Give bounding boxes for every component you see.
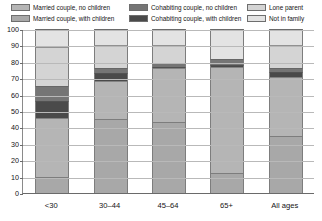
bar-segment[interactable]: [94, 45, 128, 68]
legend-swatch-married-with-children: [11, 15, 30, 22]
x-axis: <3030–4445–6465+All ages: [22, 198, 314, 218]
bar-segment[interactable]: [94, 68, 128, 73]
legend-swatch-married-no-children: [11, 4, 30, 11]
y-tick-label: 90: [11, 43, 19, 50]
legend-item-cohabiting-no-children: Cohabiting couple, no children: [129, 4, 247, 11]
legend-item-cohabiting-with-children: Cohabiting couple, with children: [129, 15, 247, 22]
bar-segment[interactable]: [152, 29, 186, 45]
x-tick-label: 30–44: [99, 201, 120, 210]
gridline: [23, 112, 314, 113]
bar-segment[interactable]: [152, 63, 186, 66]
gridline: [23, 128, 314, 129]
gridline: [23, 96, 314, 97]
y-tick-label: 0: [15, 190, 19, 197]
y-tick-label: 70: [11, 76, 19, 83]
legend-item-not-in-family: Not in family: [247, 15, 314, 22]
bar-segment[interactable]: [94, 73, 128, 81]
gridline: [23, 178, 314, 179]
bar-segment[interactable]: [94, 81, 128, 119]
bar-segment[interactable]: [210, 29, 244, 59]
bar-segment[interactable]: [35, 118, 69, 177]
x-tick-label: 45–64: [157, 201, 178, 210]
legend-label-not-in-family: Not in family: [269, 15, 304, 22]
x-tick-label: <30: [45, 201, 58, 210]
bar-segment[interactable]: [269, 29, 303, 45]
bar-segment[interactable]: [35, 86, 69, 101]
legend-item-lone-parent: Lone parent: [247, 4, 314, 11]
y-axis: 0102030405060708090100: [0, 26, 21, 194]
bar-segment[interactable]: [35, 47, 69, 86]
bar-segment[interactable]: [152, 67, 186, 69]
bar-segment[interactable]: [269, 68, 303, 71]
chart-legend: Married couple, no children Cohabiting c…: [11, 2, 314, 24]
x-tick-label: All ages: [271, 201, 298, 210]
y-tick-label: 60: [11, 92, 19, 99]
y-tick-label: 80: [11, 59, 19, 66]
legend-label-cohabiting-with-children: Cohabiting couple, with children: [151, 15, 241, 22]
y-tick-label: 100: [7, 26, 19, 33]
bar-segment[interactable]: [94, 29, 128, 45]
y-tick-mark: [20, 79, 23, 80]
gridline: [23, 46, 314, 47]
y-tick-label: 50: [11, 108, 19, 115]
legend-swatch-lone-parent: [247, 4, 266, 11]
bar-segment[interactable]: [35, 177, 69, 193]
gridline: [23, 63, 314, 64]
y-tick-mark: [20, 161, 23, 162]
bar-segment[interactable]: [210, 65, 244, 67]
y-tick-mark: [20, 145, 23, 146]
bar-segment[interactable]: [269, 45, 303, 68]
legend-label-cohabiting-no-children: Cohabiting couple, no children: [151, 4, 237, 11]
y-tick-mark: [20, 194, 23, 195]
y-tick-label: 40: [11, 125, 19, 132]
legend-label-married-no-children: Married couple, no children: [33, 4, 110, 11]
stacked-bar-chart: Married couple, no children Cohabiting c…: [0, 0, 322, 221]
y-tick-mark: [20, 96, 23, 97]
legend-swatch-not-in-family: [247, 15, 266, 22]
x-tick-label: 65+: [220, 201, 233, 210]
bar-segment[interactable]: [94, 119, 128, 193]
y-tick-label: 20: [11, 158, 19, 165]
y-tick-label: 30: [11, 141, 19, 148]
bar-segment[interactable]: [35, 101, 69, 117]
gridline: [23, 145, 314, 146]
y-tick-mark: [20, 63, 23, 64]
legend-label-married-with-children: Married couple, with children: [33, 15, 114, 22]
gridline: [23, 161, 314, 162]
bar-segment[interactable]: [210, 173, 244, 193]
gridline: [23, 79, 314, 80]
legend-label-lone-parent: Lone parent: [269, 4, 303, 11]
bar-segment[interactable]: [152, 122, 186, 193]
legend-swatch-cohabiting-no-children: [129, 4, 148, 11]
legend-item-married-with-children: Married couple, with children: [11, 15, 129, 22]
legend-item-married-no-children: Married couple, no children: [11, 4, 129, 11]
bar-segment[interactable]: [269, 77, 303, 136]
gridline: [23, 30, 314, 31]
plot-area: [22, 30, 314, 194]
legend-swatch-cohabiting-with-children: [129, 15, 148, 22]
y-tick-mark: [20, 178, 23, 179]
y-tick-mark: [20, 46, 23, 47]
plot-wrapper: 0102030405060708090100 <3030–4445–6465+A…: [0, 26, 322, 221]
bar-segment[interactable]: [269, 72, 303, 77]
bar-segment[interactable]: [210, 67, 244, 174]
y-tick-mark: [20, 112, 23, 113]
y-tick-mark: [20, 30, 23, 31]
y-tick-label: 10: [11, 174, 19, 181]
bar-segment[interactable]: [152, 45, 186, 63]
y-tick-mark: [20, 128, 23, 129]
bar-segment[interactable]: [35, 29, 69, 47]
